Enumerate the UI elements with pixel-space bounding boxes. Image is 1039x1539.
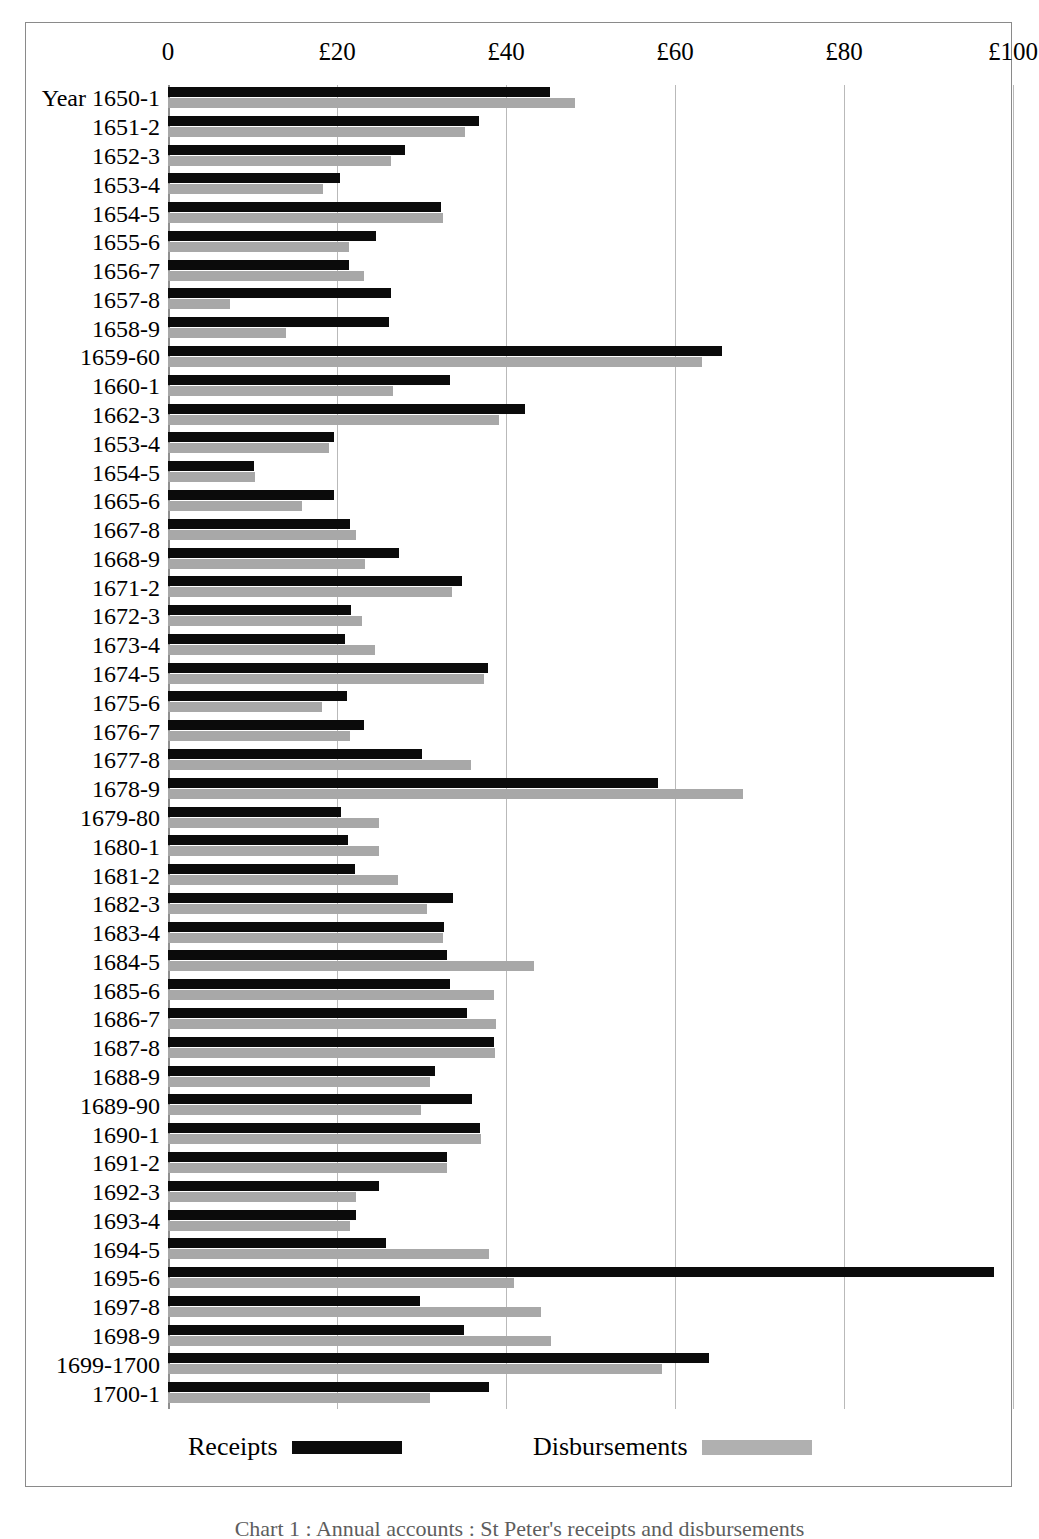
category-label: 1673-4 <box>26 634 164 656</box>
plot-area <box>168 85 1013 1409</box>
category-label: 1671-2 <box>26 577 164 599</box>
category-label: 1677-8 <box>26 749 164 771</box>
bar-receipts <box>168 1325 464 1335</box>
bar-disbursements <box>168 1336 551 1346</box>
category-label: 1700-1 <box>26 1383 164 1405</box>
category-label: 1686-7 <box>26 1008 164 1030</box>
category-label: 1681-2 <box>26 865 164 887</box>
category-label: 1690-1 <box>26 1124 164 1146</box>
category-label: 1653-4 <box>26 174 164 196</box>
bar-row <box>168 1323 1013 1352</box>
category-label: 1695-6 <box>26 1267 164 1289</box>
category-axis-labels: Year 1650-11651-21652-31653-41654-51655-… <box>26 85 164 1409</box>
bar-receipts <box>168 231 376 241</box>
bar-receipts <box>168 375 450 385</box>
bar-row <box>168 286 1013 315</box>
bar-receipts <box>168 1353 709 1363</box>
category-label: 1660-1 <box>26 375 164 397</box>
bar-receipts <box>168 260 349 270</box>
bar-row <box>168 1092 1013 1121</box>
bar-receipts <box>168 1037 494 1047</box>
bar-row <box>168 920 1013 949</box>
bar-row <box>168 488 1013 517</box>
category-label: 1654-5 <box>26 462 164 484</box>
category-label: 1668-9 <box>26 548 164 570</box>
bar-disbursements <box>168 875 398 885</box>
category-label: 1672-3 <box>26 605 164 627</box>
bar-row <box>168 171 1013 200</box>
category-label: 1659-60 <box>26 346 164 368</box>
bar-disbursements <box>168 818 379 828</box>
category-label: 1687-8 <box>26 1037 164 1059</box>
category-label: 1693-4 <box>26 1210 164 1232</box>
bar-disbursements <box>168 961 534 971</box>
bar-receipts <box>168 979 450 989</box>
category-label: 1651-2 <box>26 116 164 138</box>
legend-item-disbursements: Disbursements <box>533 1430 812 1464</box>
bar-receipts <box>168 1008 467 1018</box>
bar-row <box>168 718 1013 747</box>
category-label: 1654-5 <box>26 203 164 225</box>
bar-disbursements <box>168 904 427 914</box>
bar-row <box>168 1236 1013 1265</box>
bar-receipts <box>168 950 447 960</box>
bar-row <box>168 1064 1013 1093</box>
bar-receipts <box>168 1382 489 1392</box>
legend-item-receipts: Receipts <box>188 1430 402 1464</box>
category-label: 1689-90 <box>26 1095 164 1117</box>
bar-row <box>168 546 1013 575</box>
bar-disbursements <box>168 386 393 396</box>
bar-receipts <box>168 1123 480 1133</box>
bar-disbursements <box>168 616 362 626</box>
x-tick-label-4: £80 <box>825 37 863 67</box>
category-label: 1652-3 <box>26 145 164 167</box>
bar-disbursements <box>168 645 375 655</box>
bar-disbursements <box>168 299 230 309</box>
bar-row <box>168 258 1013 287</box>
bar-disbursements <box>168 242 349 252</box>
bar-row <box>168 402 1013 431</box>
bar-disbursements <box>168 1134 481 1144</box>
bar-receipts <box>168 835 348 845</box>
bar-row <box>168 977 1013 1006</box>
bar-row <box>168 948 1013 977</box>
bar-disbursements <box>168 731 350 741</box>
bar-disbursements <box>168 1221 350 1231</box>
bar-receipts <box>168 145 405 155</box>
bar-receipts <box>168 288 391 298</box>
category-label: 1657-8 <box>26 289 164 311</box>
bar-row <box>168 891 1013 920</box>
bar-receipts <box>168 1152 447 1162</box>
bar-receipts <box>168 432 334 442</box>
bar-receipts <box>168 778 658 788</box>
gridline-5 <box>1013 85 1014 1409</box>
bar-disbursements <box>168 530 356 540</box>
bar-receipts <box>168 605 351 615</box>
bar-receipts <box>168 317 389 327</box>
bar-row <box>168 1265 1013 1294</box>
legend-label-disbursements: Disbursements <box>533 1430 688 1464</box>
bar-disbursements <box>168 328 286 338</box>
bar-disbursements <box>168 1278 514 1288</box>
bar-receipts <box>168 807 341 817</box>
bar-receipts <box>168 1296 420 1306</box>
bar-receipts <box>168 1210 356 1220</box>
category-label: 1685-6 <box>26 980 164 1002</box>
bar-row <box>168 344 1013 373</box>
bar-disbursements <box>168 501 302 511</box>
bar-row <box>168 459 1013 488</box>
bar-row <box>168 805 1013 834</box>
bar-disbursements <box>168 1105 421 1115</box>
bar-disbursements <box>168 990 494 1000</box>
bar-row <box>168 1006 1013 1035</box>
bar-receipts <box>168 691 347 701</box>
category-label: Year 1650-1 <box>26 87 164 109</box>
category-label: 1662-3 <box>26 404 164 426</box>
category-label: 1692-3 <box>26 1181 164 1203</box>
bar-row <box>168 143 1013 172</box>
bar-receipts <box>168 461 254 471</box>
bar-row <box>168 603 1013 632</box>
legend-swatch-receipts <box>292 1441 402 1454</box>
category-label: 1699-1700 <box>26 1354 164 1376</box>
category-label: 1688-9 <box>26 1066 164 1088</box>
